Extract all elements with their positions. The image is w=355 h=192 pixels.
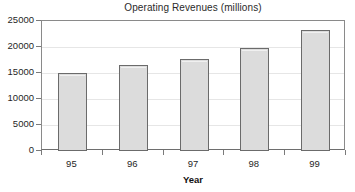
y-axis-label: 20000 xyxy=(0,41,34,51)
y-axis-tick xyxy=(36,20,41,21)
x-axis-tick xyxy=(345,150,346,155)
chart-title: Operating Revenues (millions) xyxy=(41,1,345,14)
bar xyxy=(119,65,148,151)
bar-highlight xyxy=(60,75,85,76)
x-axis-label: 95 xyxy=(51,158,91,169)
x-axis-tick xyxy=(102,150,103,155)
bar-highlight xyxy=(182,61,207,62)
y-axis-tick xyxy=(36,46,41,47)
bar xyxy=(240,48,269,151)
y-axis-label: 15000 xyxy=(0,67,34,77)
y-axis-tick xyxy=(36,72,41,73)
y-axis-label: 25000 xyxy=(0,15,34,25)
bar-chart: Operating Revenues (millions) 0500010000… xyxy=(0,0,355,192)
x-axis-tick xyxy=(163,150,164,155)
y-axis-tick xyxy=(36,98,41,99)
x-axis-tick xyxy=(41,150,42,155)
x-axis-label: 98 xyxy=(234,158,274,169)
x-axis-title: Year xyxy=(41,174,345,185)
gridline xyxy=(42,47,344,48)
x-axis-label: 96 xyxy=(112,158,152,169)
y-axis-label: 0 xyxy=(0,145,34,155)
x-axis-label: 99 xyxy=(295,158,335,169)
bar xyxy=(180,59,209,151)
y-axis-label: 5000 xyxy=(0,119,34,129)
x-axis-label: 97 xyxy=(173,158,213,169)
plot-area xyxy=(41,20,345,150)
bar xyxy=(301,30,330,151)
bar-highlight xyxy=(303,32,328,33)
x-axis-tick xyxy=(284,150,285,155)
y-axis-tick xyxy=(36,124,41,125)
x-axis-tick xyxy=(223,150,224,155)
y-axis-label: 10000 xyxy=(0,93,34,103)
bar xyxy=(58,73,87,151)
bar-highlight xyxy=(121,67,146,68)
bar-highlight xyxy=(242,50,267,51)
